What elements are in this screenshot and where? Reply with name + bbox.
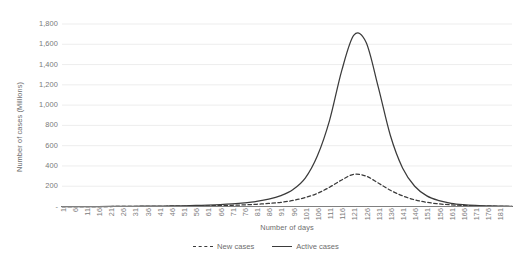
x-tick-label: 1 — [59, 208, 68, 212]
gridlines — [62, 24, 512, 186]
legend-item[interactable]: Active cases — [272, 242, 339, 251]
x-tick-label: 46 — [168, 208, 177, 216]
x-tick-label: 161 — [448, 208, 457, 220]
chart-container: Number of cases (Millions) 1,8001,6001,4… — [0, 0, 532, 262]
x-tick-label: 56 — [192, 208, 201, 216]
x-tick-label: 51 — [180, 208, 189, 216]
legend-item[interactable]: New cases — [193, 242, 254, 251]
x-tick-label: 146 — [411, 208, 420, 220]
x-tick-label: 126 — [363, 208, 372, 220]
x-tick-label: 116 — [338, 208, 347, 220]
x-tick-label: 41 — [156, 208, 165, 216]
x-tick-label: 136 — [387, 208, 396, 220]
x-tick-label: 96 — [290, 208, 299, 216]
x-tick-label: 26 — [119, 208, 128, 216]
x-tick-label: 81 — [253, 208, 262, 216]
x-tick-label: 76 — [241, 208, 250, 216]
x-tick-label: 166 — [460, 208, 469, 220]
x-tick-label: 71 — [229, 208, 238, 216]
x-tick-label: 61 — [204, 208, 213, 216]
x-tick-label: 141 — [399, 208, 408, 220]
x-tick-label: 176 — [484, 208, 493, 220]
x-tick-label: 106 — [314, 208, 323, 220]
chart-legend: New casesActive cases — [0, 242, 532, 251]
x-tick-label: 36 — [144, 208, 153, 216]
x-tick-label: 131 — [375, 208, 384, 220]
x-tick-label: 31 — [131, 208, 140, 216]
x-tick-label: 66 — [217, 208, 226, 216]
legend-swatch-solid-icon — [272, 246, 292, 247]
x-tick-label: 21 — [107, 208, 116, 216]
x-tick-label: 111 — [326, 208, 335, 219]
x-tick-label: 121 — [350, 208, 359, 220]
x-tick-label: 181 — [496, 208, 505, 220]
x-tick-label: 91 — [277, 208, 286, 216]
series-line-active-cases — [62, 33, 512, 207]
legend-label: Active cases — [296, 242, 339, 251]
legend-label: New cases — [217, 242, 254, 251]
x-tick-label: 6 — [71, 208, 80, 212]
x-tick-label: 156 — [436, 208, 445, 220]
legend-swatch-dashed-icon — [193, 246, 213, 247]
x-tick-label: 151 — [423, 208, 432, 220]
x-tick-label: 16 — [95, 208, 104, 216]
x-tick-label: 171 — [472, 208, 481, 220]
x-tick-label: 11 — [83, 208, 92, 216]
x-tick-label: 86 — [265, 208, 274, 216]
x-axis-title: Number of days — [62, 223, 512, 232]
series-layer — [62, 33, 512, 207]
x-tick-label: 101 — [302, 208, 311, 220]
